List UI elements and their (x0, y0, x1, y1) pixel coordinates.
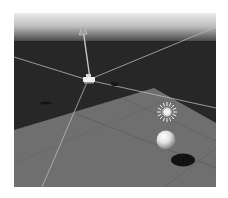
sphere-shadow (171, 154, 195, 167)
sun-icon[interactable] (157, 102, 177, 122)
scene-canvas[interactable] (14, 13, 216, 187)
scene-viewport[interactable] (14, 13, 216, 187)
skybox (14, 13, 216, 43)
sphere-icon[interactable] (157, 131, 176, 150)
